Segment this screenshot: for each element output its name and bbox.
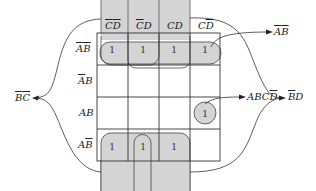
term-label-abc-dbar: ABCD — [247, 92, 277, 102]
svg-text:1: 1 — [171, 142, 177, 152]
column-label-c-dbar: CD — [198, 21, 214, 31]
column-label-cbar-d: CD — [136, 21, 152, 31]
row-label-ab: AB — [79, 108, 94, 118]
svg-text:1: 1 — [202, 45, 208, 55]
term-label-bbar-d: BD — [288, 92, 303, 102]
svg-text:1: 1 — [109, 45, 115, 55]
svg-text:1: 1 — [109, 142, 115, 152]
term-label-abar-bbar: AB — [274, 27, 289, 37]
svg-text:1: 1 — [202, 109, 208, 119]
svg-text:1: 1 — [140, 142, 146, 152]
row-label-abar-bbar: AB — [76, 44, 91, 54]
row-label-abar-b: AB — [78, 76, 93, 86]
column-label-cbar-dbar: CD — [105, 21, 121, 31]
row-label-a-bbar: AB — [78, 140, 93, 150]
svg-text:1: 1 — [140, 45, 146, 55]
term-label-bbar-cbar: BC — [15, 93, 30, 103]
svg-text:1: 1 — [171, 45, 177, 55]
column-label-cd: CD — [167, 21, 183, 31]
